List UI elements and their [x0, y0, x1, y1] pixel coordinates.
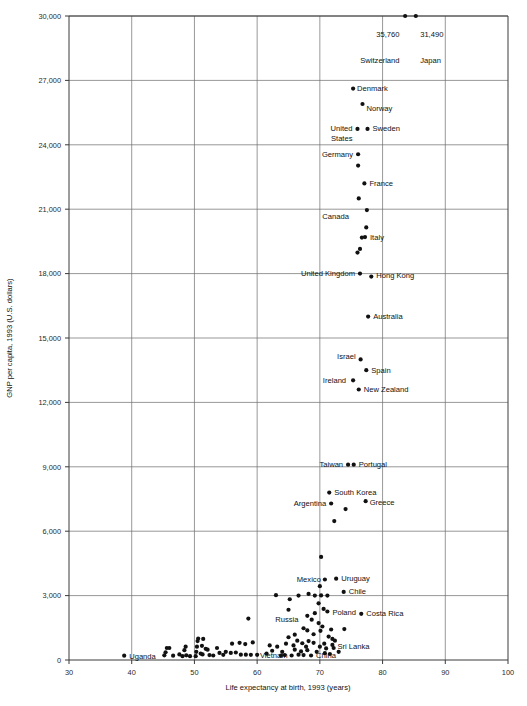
- data-point: [293, 633, 297, 637]
- point-label-taiwan: Taiwan: [319, 460, 343, 469]
- data-point: [295, 639, 299, 643]
- data-point-spain: [364, 368, 368, 372]
- data-point-china: [309, 653, 313, 657]
- data-point: [324, 646, 328, 650]
- data-point: [162, 653, 166, 657]
- y-tick-label: 3,000: [43, 591, 62, 600]
- data-point: [237, 641, 241, 645]
- data-point: [304, 645, 308, 649]
- x-tick-label: 100: [502, 668, 514, 677]
- point-label-chile: Chile: [349, 587, 366, 596]
- data-point-germany2: [356, 164, 360, 168]
- data-point-finland: [355, 250, 359, 254]
- data-point: [249, 653, 253, 657]
- point-label-norway: Norway: [367, 104, 393, 113]
- data-point-germany: [356, 152, 360, 156]
- data-point-poland: [325, 609, 329, 613]
- data-point: [293, 648, 297, 652]
- data-point: [301, 626, 305, 630]
- point-label-china: China: [316, 651, 337, 660]
- point-label-uganda: Uganda: [129, 652, 156, 661]
- data-point-labels: DenmarkNorwayUnitedStatesSwedenGermanyFr…: [129, 84, 414, 661]
- data-point-united-states: [355, 127, 359, 131]
- y-tick-label: 30,000: [38, 12, 61, 21]
- data-point-austria: [357, 196, 361, 200]
- data-point: [195, 645, 199, 649]
- data-point-uganda: [122, 654, 126, 658]
- data-point: [243, 642, 247, 646]
- annotation-switzerland: Switzerland: [360, 56, 399, 65]
- data-point: [305, 614, 309, 618]
- data-point-canada: [365, 208, 369, 212]
- data-point-unlabeled-mid2: [332, 519, 336, 523]
- y-tick-label: 0: [57, 656, 61, 665]
- data-point-new-zealand: [357, 387, 361, 391]
- point-label-hong-kong: Hong Kong: [376, 271, 414, 280]
- data-point: [300, 641, 304, 645]
- data-point-united-kingdom: [358, 272, 362, 276]
- data-point-denmark: [351, 86, 355, 90]
- point-label-australia: Australia: [373, 312, 403, 321]
- point-label-spain: Spain: [371, 366, 390, 375]
- data-point: [318, 629, 322, 633]
- y-axis-tick-labels: 03,0006,0009,00012,00015,00018,00021,000…: [38, 12, 61, 665]
- data-point-ireland: [351, 378, 355, 382]
- data-point: [313, 594, 317, 598]
- point-label-argentina: Argentina: [294, 499, 327, 508]
- point-label-united-states: UnitedStates: [331, 124, 353, 142]
- data-point: [199, 651, 203, 655]
- data-point: [215, 646, 219, 650]
- data-point: [320, 624, 324, 628]
- point-label-poland: Poland: [332, 608, 356, 617]
- data-point: [284, 642, 288, 646]
- data-point: [318, 645, 322, 649]
- data-point: [288, 597, 292, 601]
- data-point-sweden: [365, 127, 369, 131]
- x-tick-label: 40: [128, 668, 136, 677]
- data-point: [301, 653, 305, 657]
- data-point: [296, 653, 300, 657]
- data-point: [177, 652, 181, 656]
- point-label-south-korea: South Korea: [334, 488, 377, 497]
- data-point: [194, 650, 198, 654]
- data-point: [306, 639, 310, 643]
- point-label-france: France: [369, 179, 393, 188]
- data-point: [306, 592, 310, 596]
- y-tick-label: 6,000: [43, 527, 62, 536]
- point-label-uruguay: Uruguay: [341, 574, 370, 583]
- data-point: [296, 594, 300, 598]
- data-point: [201, 637, 205, 641]
- data-point: [313, 611, 317, 615]
- point-label-israel: Israel: [337, 352, 356, 361]
- data-point: [342, 627, 346, 631]
- data-point: [329, 627, 333, 631]
- point-label-italypt: Italy: [370, 233, 384, 242]
- data-point-uruguay: [334, 577, 338, 581]
- point-label-new-zealand: New Zealand: [364, 385, 409, 394]
- y-tick-label: 18,000: [38, 269, 61, 278]
- x-tick-label: 50: [190, 668, 198, 677]
- data-point-portugal: [352, 463, 356, 467]
- x-tick-label: 80: [378, 668, 386, 677]
- data-point: [317, 621, 321, 625]
- data-point: [188, 654, 192, 658]
- data-point: [333, 639, 337, 643]
- value-annotations: 35,760Switzerland31,490Japan: [360, 30, 443, 65]
- data-point: [184, 653, 188, 657]
- y-tick-label: 15,000: [38, 334, 61, 343]
- y-tick-label: 27,000: [38, 76, 61, 85]
- data-point: [234, 650, 238, 654]
- data-point-japan: [414, 14, 418, 18]
- data-point: [325, 594, 329, 598]
- data-point: [305, 628, 309, 632]
- data-point-chile: [342, 590, 346, 594]
- annotation-japan: Japan: [420, 56, 441, 65]
- data-point: [217, 651, 221, 655]
- data-point-italy: [364, 225, 368, 229]
- data-point-belgium: [358, 247, 362, 251]
- data-point: [194, 654, 198, 658]
- data-point: [317, 601, 321, 605]
- point-label-germany: Germany: [322, 150, 353, 159]
- data-point-greece: [364, 499, 368, 503]
- data-point-costa-rica: [359, 612, 363, 616]
